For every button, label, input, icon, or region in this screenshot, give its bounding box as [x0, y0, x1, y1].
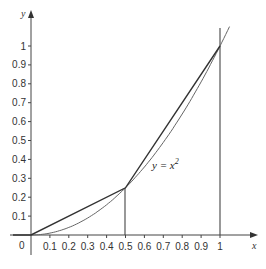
y-tick-label: 0.8	[12, 78, 26, 89]
curve-annotation: y = x2	[151, 157, 179, 171]
y-axis-ticks: 0.10.20.30.40.50.60.70.80.91	[12, 41, 31, 222]
x-axis-ticks: 0.10.20.30.40.50.60.70.80.91	[43, 235, 223, 252]
y-tick-label: 0.9	[12, 59, 26, 70]
y-axis-label: y	[20, 8, 26, 19]
x-tick-label: 1	[217, 241, 223, 252]
x-tick-label: 0.4	[100, 241, 114, 252]
x-tick-label: 0.5	[119, 241, 133, 252]
x-tick-label: 0.6	[137, 241, 151, 252]
y-tick-label: 1	[20, 41, 26, 52]
y-tick-label: 0.6	[12, 116, 26, 127]
y-tick-label: 0.3	[12, 173, 26, 184]
x-tick-label: 0.8	[175, 241, 189, 252]
y-tick-label: 0.5	[12, 135, 26, 146]
y-tick-label: 0.7	[12, 97, 26, 108]
y-tick-label: 0.1	[12, 211, 26, 222]
y-tick-label: 0.2	[12, 192, 26, 203]
x-axis-label: x	[251, 240, 257, 251]
x-axis-arrow-icon	[250, 232, 258, 238]
y-tick-label: 0.4	[12, 154, 26, 165]
x-tick-label: 0.1	[43, 241, 57, 252]
x-tick-label: 0.2	[62, 241, 76, 252]
chord-polyline	[13, 46, 220, 235]
origin-label: 0	[19, 240, 25, 251]
x-tick-label: 0.7	[156, 241, 170, 252]
x-tick-label: 0.3	[81, 241, 95, 252]
x-tick-label: 0.9	[194, 241, 208, 252]
y-axis-arrow-icon	[28, 10, 34, 18]
chart: 0.10.20.30.40.50.60.70.80.91 0.10.20.30.…	[0, 0, 266, 269]
parabola-curve	[31, 27, 230, 235]
